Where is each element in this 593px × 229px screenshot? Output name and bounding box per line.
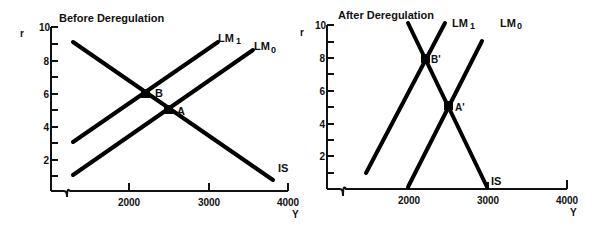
- lm0-label: LM0: [500, 17, 522, 31]
- y-axis-ticks: [51, 27, 58, 176]
- is-label: IS: [491, 175, 501, 187]
- point-a-prime-marker: [444, 101, 453, 110]
- lm0-curve: [408, 41, 482, 187]
- point-b-prime-marker: [421, 54, 430, 63]
- chart-before-deregulation: Before Deregulation r 10 8 6 4 2: [20, 12, 300, 220]
- lm0-curve: [73, 50, 253, 175]
- y-tick-labels: 10 8 6 4 2: [315, 20, 327, 162]
- svg-text:10: 10: [39, 22, 51, 33]
- lm1-label: LM1: [218, 32, 241, 46]
- y-tick-labels: 10 8 6 4 2: [39, 22, 51, 166]
- point-b-prime-label: B': [431, 54, 441, 65]
- x-axis-label: Y: [570, 207, 577, 218]
- x-tick-labels: 2000 3000 4000: [398, 195, 579, 206]
- svg-text:4: 4: [319, 119, 325, 130]
- svg-text:8: 8: [43, 56, 49, 67]
- svg-text:3000: 3000: [198, 197, 221, 208]
- lm1-label: LM1: [452, 17, 475, 31]
- point-b-marker: [141, 89, 150, 98]
- x-axis: [327, 188, 567, 196]
- x-axis: [51, 190, 288, 197]
- point-a-prime-label: A': [455, 102, 465, 113]
- y-axis-label: r: [20, 28, 24, 39]
- svg-text:2: 2: [43, 155, 49, 166]
- x-axis-label: Y: [292, 209, 299, 220]
- svg-text:4000: 4000: [556, 195, 579, 206]
- lm0-label: LM0: [254, 40, 276, 55]
- chart-after-deregulation: After Deregulation r 10 8 6 4 2: [300, 9, 579, 218]
- svg-text:8: 8: [319, 53, 325, 64]
- svg-text:4: 4: [43, 122, 49, 133]
- point-a-marker: [164, 105, 173, 114]
- x-axis-ticks: [129, 183, 288, 191]
- chart-title: After Deregulation: [338, 9, 434, 21]
- svg-text:2000: 2000: [398, 195, 421, 206]
- svg-text:6: 6: [319, 86, 325, 97]
- svg-text:6: 6: [43, 89, 49, 100]
- y-axis-ticks: [327, 25, 334, 173]
- point-a-label: A: [177, 105, 185, 117]
- svg-text:4000: 4000: [277, 197, 300, 208]
- y-axis-label: r: [300, 27, 304, 38]
- point-b-label: B: [155, 87, 163, 99]
- chart-title: Before Deregulation: [59, 12, 164, 24]
- is-lm-figure: Before Deregulation r 10 8 6 4 2: [0, 0, 593, 229]
- svg-text:2: 2: [319, 151, 325, 162]
- x-tick-labels: 2000 3000 4000: [118, 197, 300, 208]
- svg-text:3000: 3000: [477, 195, 500, 206]
- svg-text:2000: 2000: [118, 197, 141, 208]
- svg-text:10: 10: [315, 20, 327, 31]
- lm1-curve: [366, 23, 445, 173]
- is-label: IS: [278, 162, 288, 174]
